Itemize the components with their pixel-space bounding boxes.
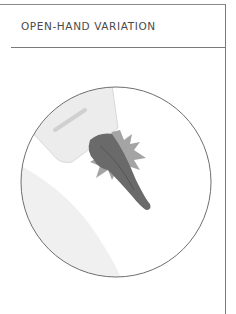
body-shadow-shape: [10, 160, 130, 300]
